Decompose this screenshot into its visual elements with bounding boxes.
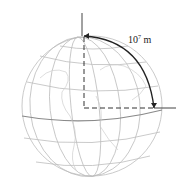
equator	[22, 110, 162, 121]
label-base: 10	[128, 34, 138, 45]
distance-label: 107 m	[128, 34, 151, 45]
label-unit: m	[144, 34, 152, 45]
continents	[40, 65, 146, 170]
label-exponent: 7	[138, 34, 141, 40]
globe	[22, 31, 162, 182]
globe-diagram	[0, 0, 184, 191]
arrowhead-bottom-icon	[151, 103, 157, 108]
